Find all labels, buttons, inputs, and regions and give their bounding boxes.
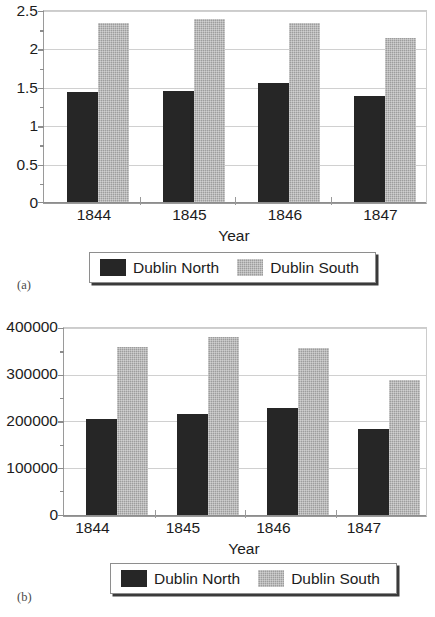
y-tick-label: 400000: [0, 319, 58, 335]
y-tick-label: 1: [0, 118, 38, 134]
y-tick-label: 2.5: [0, 3, 38, 19]
y-tick-major: [38, 165, 44, 166]
x-tick: [155, 510, 156, 518]
y-tick-major: [38, 126, 44, 127]
bar-south-1844: [98, 23, 129, 201]
y-tick-minor: [40, 69, 44, 70]
bar-south-1847: [389, 380, 420, 515]
x-tick: [140, 197, 141, 205]
bar-south-1845: [194, 19, 225, 202]
x-category-label: 1845: [148, 520, 218, 536]
bar-north-1845: [163, 91, 194, 202]
y-tick-minor: [60, 491, 64, 492]
bar-north-1845: [177, 414, 208, 514]
bar-north-1844: [67, 92, 98, 202]
bar-north-1846: [267, 408, 298, 514]
bar-south-1847: [385, 38, 416, 202]
chart-panel-a: 2.5 2 1.5 1 0.5 0: [0, 0, 435, 310]
bar-south-1846: [298, 348, 329, 514]
y-tick-minor: [60, 445, 64, 446]
bar-north-1847: [358, 429, 389, 514]
x-category-label: 1844: [59, 207, 129, 223]
plot-area-a: [43, 10, 427, 204]
y-tick-major: [38, 202, 44, 203]
y-tick-label: 100000: [0, 460, 58, 476]
y-tick-minor: [40, 30, 44, 31]
panel-tag-b: (b): [17, 591, 32, 604]
y-tick-major: [58, 328, 64, 329]
x-axis-title: Year: [43, 228, 425, 244]
legend-swatch-south-icon: [237, 259, 263, 276]
legend-label: Dublin North: [133, 260, 219, 276]
legend-label: Dublin North: [154, 571, 240, 587]
x-category-label: 1846: [239, 520, 309, 536]
legend-swatch-north-icon: [100, 259, 126, 276]
x-category-label: 1846: [250, 207, 320, 223]
bar-north-1844: [86, 419, 117, 515]
x-category-label: 1847: [329, 520, 399, 536]
chart-panel-b: 400000 300000 200000 100000 0: [0, 310, 435, 617]
legend-b: Dublin North Dublin South: [110, 563, 397, 594]
y-tick-label: 2: [0, 41, 38, 57]
x-category-label: 1845: [155, 207, 225, 223]
x-tick: [336, 510, 337, 518]
x-category-label: 1844: [58, 520, 128, 536]
y-tick-label: 1.5: [0, 80, 38, 96]
y-tick-label: 200000: [0, 413, 58, 429]
y-tick-major: [58, 375, 64, 376]
y-tick-label: 300000: [0, 366, 58, 382]
bar-south-1844: [117, 347, 148, 515]
legend-item-dublin-north: Dublin North: [121, 570, 240, 587]
y-tick-major: [38, 11, 44, 12]
gridline-400000: [64, 328, 426, 329]
x-category-label: 1847: [346, 207, 416, 223]
plot-area-b: [63, 327, 427, 517]
y-tick-label: 0: [0, 195, 38, 211]
bar-south-1845: [208, 337, 239, 514]
bar-south-1846: [289, 23, 320, 202]
y-tick-major: [38, 88, 44, 89]
x-axis-title: Year: [63, 541, 425, 557]
bar-north-1846: [258, 83, 289, 202]
legend-item-dublin-north: Dublin North: [100, 259, 219, 276]
legend-label: Dublin South: [291, 571, 380, 587]
y-tick-major: [58, 421, 64, 422]
legend-swatch-north-icon: [121, 570, 147, 587]
y-tick-major: [58, 468, 64, 469]
x-tick: [331, 197, 332, 205]
legend-label: Dublin South: [270, 260, 359, 276]
y-tick-major: [38, 49, 44, 50]
y-tick-major: [58, 515, 64, 516]
y-tick-label: 0.5: [0, 157, 38, 173]
legend-item-dublin-south: Dublin South: [237, 259, 359, 276]
y-tick-minor: [40, 184, 44, 185]
y-tick-label: 0: [0, 507, 58, 523]
y-tick-minor: [60, 351, 64, 352]
legend-a: Dublin North Dublin South: [89, 252, 376, 283]
bar-north-1847: [354, 96, 385, 201]
legend-item-dublin-south: Dublin South: [258, 570, 380, 587]
gridline-2.5: [44, 11, 426, 12]
y-tick-minor: [60, 398, 64, 399]
y-tick-minor: [40, 107, 44, 108]
y-tick-minor: [40, 145, 44, 146]
panel-tag-a: (a): [17, 279, 31, 292]
x-tick: [235, 197, 236, 205]
legend-swatch-south-icon: [258, 570, 284, 587]
x-tick: [245, 510, 246, 518]
